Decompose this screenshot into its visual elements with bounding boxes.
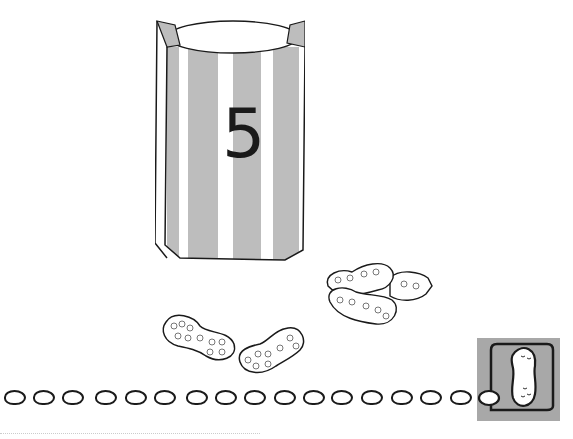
dot [33,390,55,405]
dot [95,390,117,405]
peanut-icon [477,338,560,421]
dot [274,390,296,405]
dot [62,390,84,405]
dot [420,390,442,405]
dot [244,390,266,405]
divider-line [0,433,260,434]
dot [450,390,472,405]
dot [303,390,325,405]
dot [154,390,176,405]
dot [331,390,353,405]
peanut-icon [236,326,308,376]
answer-box [477,338,560,421]
dot [215,390,237,405]
bag-number: 5 [222,100,265,168]
dot [125,390,147,405]
dot [391,390,413,405]
peanut-icon [160,312,238,364]
dot [186,390,208,405]
peanut-cluster-icon [320,258,435,333]
dot [361,390,383,405]
dot [4,390,26,405]
